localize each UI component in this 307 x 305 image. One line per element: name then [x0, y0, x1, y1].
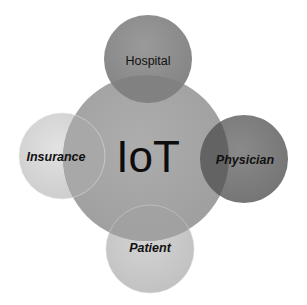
insurance-label: Insurance — [26, 150, 85, 164]
iot-label: IoT — [116, 132, 180, 182]
iot-diagram: IoT Hospital Insurance Physician Patient — [0, 0, 307, 305]
patient-label: Patient — [129, 241, 171, 255]
hospital-label: Hospital — [125, 54, 170, 68]
physician-label: Physician — [216, 153, 274, 167]
